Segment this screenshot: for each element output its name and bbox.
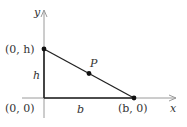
x-axis-label: x <box>170 102 177 115</box>
triangle-diagram: y x (0, h) (0, 0) (b, 0) P h b <box>0 0 187 127</box>
height-label: h <box>33 69 40 82</box>
y-axis-label: y <box>33 6 41 19</box>
right-vertex-point <box>132 96 137 101</box>
base-label: b <box>77 103 84 116</box>
origin-label: (0, 0) <box>5 102 35 115</box>
midpoint-p <box>87 71 92 76</box>
top-vertex-point <box>42 47 47 52</box>
right-vertex-label: (b, 0) <box>118 102 148 115</box>
midpoint-label: P <box>89 57 98 70</box>
top-vertex-label: (0, h) <box>5 43 35 56</box>
